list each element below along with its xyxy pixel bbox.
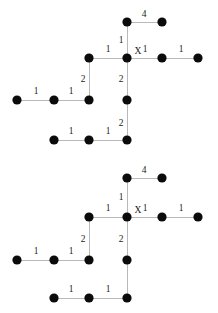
graph-node [84,135,93,144]
edge-weight-label: 1 [179,44,184,54]
edge-weight-label: 1 [119,35,124,45]
graph-node [122,53,131,62]
graph-node [84,255,93,264]
graph-node [157,173,166,182]
graph-node [122,135,131,144]
edge-weight-label: 1 [69,126,74,136]
edge-weight-label: 4 [142,9,147,19]
graph-node [122,173,131,182]
edge-weight-label: 4 [142,165,147,175]
node-label-x: X [135,205,142,215]
edge-weight-label: 1 [106,284,111,294]
edge-weight-label: 1 [69,246,74,256]
graph-node [122,293,131,302]
edge-weight-label: 1 [34,86,39,96]
edge-weight-label: 1 [143,203,148,213]
node-label-x: X [135,46,142,56]
graph-node [157,212,166,221]
diagram-canvas: 41111221121141111221111 XX [0,0,218,313]
edge-weight-label: 2 [119,234,124,244]
graph-node [84,293,93,302]
edge-labels-layer: 41111221121141111221111 [34,9,184,294]
graph-node [122,255,131,264]
edge-weight-label: 2 [81,234,86,244]
edge-weight-label: 1 [69,284,74,294]
node-labels-layer: XX [135,46,142,215]
graph-node [49,95,58,104]
graph-node [157,53,166,62]
graph-node [84,212,93,221]
edge-weight-label: 2 [119,118,124,128]
edge-weight-label: 1 [106,203,111,213]
graph-node [122,95,131,104]
graph-pair-svg: 41111221121141111221111 XX [0,0,218,313]
graph-node [122,17,131,26]
graph-node [193,53,202,62]
edges-layer [17,22,198,298]
edge-weight-label: 1 [119,192,124,202]
graph-node [49,255,58,264]
graph-node [84,95,93,104]
edge-weight-label: 1 [143,44,148,54]
graph-node [12,255,21,264]
edge-weight-label: 1 [106,44,111,54]
graph-node [49,135,58,144]
edge-weight-label: 2 [81,74,86,84]
graph-node [157,17,166,26]
graph-node [49,293,58,302]
graph-node [84,53,93,62]
edge-weight-label: 2 [119,74,124,84]
edge-weight-label: 1 [106,126,111,136]
graph-node [122,212,131,221]
edge-weight-label: 1 [34,246,39,256]
edge-weight-label: 1 [179,203,184,213]
graph-node [193,212,202,221]
graph-node [12,95,21,104]
edge-weight-label: 1 [69,86,74,96]
